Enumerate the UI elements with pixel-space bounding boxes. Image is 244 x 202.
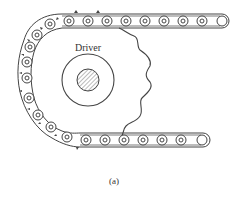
- chain-rollers-wrap: [22, 19, 72, 142]
- driver-label: Driver: [75, 42, 102, 53]
- chain-drive-diagram: Driver (a): [0, 0, 244, 202]
- figure-caption: (a): [109, 176, 119, 186]
- sprocket-teeth: [119, 28, 151, 138]
- chain-rollers-top: [64, 16, 227, 26]
- shaft: [77, 69, 99, 91]
- chain-rollers-bottom: [81, 135, 207, 145]
